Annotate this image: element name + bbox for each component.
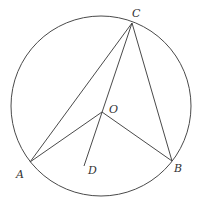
label-O: O bbox=[109, 103, 118, 116]
segment-OB bbox=[102, 112, 172, 161]
segment-CD bbox=[84, 23, 132, 166]
segment-CA bbox=[30, 23, 132, 162]
segment-OA bbox=[30, 112, 102, 162]
label-A: A bbox=[15, 168, 24, 181]
geometry-diagram: C A B O D bbox=[0, 0, 198, 204]
label-D: D bbox=[87, 164, 97, 177]
circle bbox=[11, 16, 191, 196]
label-B: B bbox=[173, 162, 182, 175]
label-C: C bbox=[132, 7, 141, 20]
